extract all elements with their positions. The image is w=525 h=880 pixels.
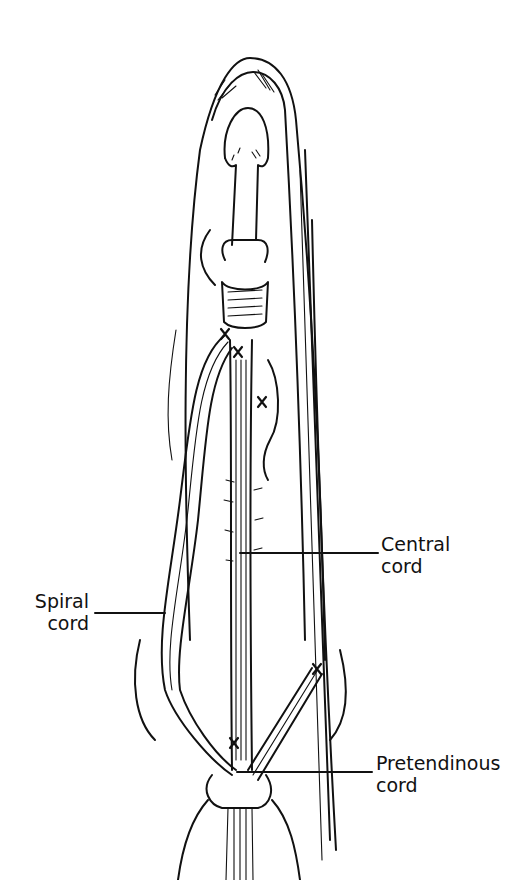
x-marker-1 — [221, 329, 229, 339]
label-line: Spiral — [30, 590, 89, 612]
finger-illustration — [0, 0, 525, 880]
label-line: Central — [381, 533, 450, 555]
central-cord-label: Central cord — [381, 533, 450, 577]
central-cord — [224, 340, 263, 770]
label-line: Pretendinous — [376, 752, 500, 774]
finger-cord-diagram: Central cord Spiral cord Pretendinous co… — [0, 0, 525, 880]
x-marker-3 — [258, 397, 266, 407]
oblique-cord-right — [248, 668, 322, 780]
x-marker-2 — [234, 347, 242, 357]
label-line: cord — [381, 555, 450, 577]
label-line: cord — [30, 612, 89, 634]
distal-phalanx — [225, 108, 269, 245]
label-line: cord — [376, 774, 500, 796]
pretendinous-cord-label: Pretendinous cord — [376, 752, 500, 796]
spiral-cord — [162, 336, 236, 775]
x-marker-4 — [313, 664, 321, 674]
spiral-cord-label: Spiral cord — [30, 590, 89, 634]
